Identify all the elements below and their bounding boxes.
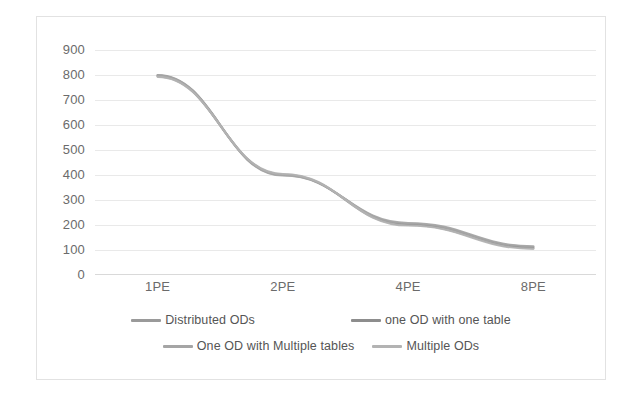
x-axis: 1PE2PE4PE8PE <box>95 279 596 299</box>
legend-swatch-icon <box>351 319 381 322</box>
chart-plot-wrapper: 9008007006005004003002001000 1PE2PE4PE8P… <box>37 17 605 379</box>
y-tick-label: 500 <box>45 145 85 155</box>
series-line <box>158 76 534 248</box>
legend-label: One OD with Multiple tables <box>197 339 355 353</box>
x-tick-label: 1PE <box>123 279 193 294</box>
legend-swatch-icon <box>163 345 193 348</box>
legend-item[interactable]: Distributed ODs <box>131 313 255 327</box>
y-tick-label: 0 <box>45 270 85 280</box>
x-tick-label: 4PE <box>373 279 443 294</box>
y-tick-label: 100 <box>45 245 85 255</box>
x-axis-line <box>95 274 596 275</box>
legend-swatch-icon <box>372 345 402 348</box>
legend-label: one OD with one table <box>385 313 511 327</box>
chart-container: 9008007006005004003002001000 1PE2PE4PE8P… <box>36 16 606 380</box>
y-tick-label: 400 <box>45 170 85 180</box>
legend-item[interactable]: Multiple ODs <box>372 339 479 353</box>
series-line <box>158 76 534 247</box>
y-tick-label: 900 <box>45 45 85 55</box>
legend-label: Distributed ODs <box>165 313 255 327</box>
legend-item[interactable]: one OD with one table <box>351 313 511 327</box>
plot-area <box>95 50 596 275</box>
legend-row: Distributed ODsone OD with one table <box>131 313 511 327</box>
series-line <box>158 75 534 247</box>
y-tick-label: 600 <box>45 120 85 130</box>
y-tick-label: 800 <box>45 70 85 80</box>
series-line <box>158 77 534 249</box>
y-tick-label: 700 <box>45 95 85 105</box>
legend-label: Multiple ODs <box>406 339 479 353</box>
legend-item[interactable]: One OD with Multiple tables <box>163 339 355 353</box>
series-lines <box>95 50 596 275</box>
x-tick-label: 8PE <box>498 279 568 294</box>
y-axis: 9008007006005004003002001000 <box>41 50 85 275</box>
x-tick-label: 2PE <box>248 279 318 294</box>
y-tick-label: 300 <box>45 195 85 205</box>
y-tick-label: 200 <box>45 220 85 230</box>
legend-row: One OD with Multiple tablesMultiple ODs <box>163 339 479 353</box>
chart-legend: Distributed ODsone OD with one tableOne … <box>37 313 605 353</box>
legend-swatch-icon <box>131 319 161 322</box>
